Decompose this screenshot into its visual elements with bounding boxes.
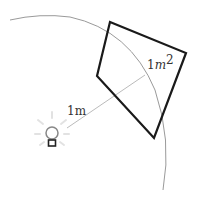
distance-label: 1m [67,104,87,118]
surface-quadrilateral [97,22,186,138]
light-bulb-icon [35,112,69,146]
inverse-square-diagram: 1m 1m2 [0,0,199,199]
area-label: 1m2 [147,53,174,72]
radius-arc [10,16,166,190]
radius-line [67,75,145,128]
